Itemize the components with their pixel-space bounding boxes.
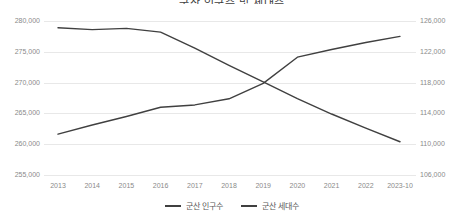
series-line — [58, 36, 400, 134]
legend-item[interactable]: 군산 세대수 — [241, 200, 299, 211]
legend-label: 군산 세대수 — [262, 200, 299, 211]
series-line — [58, 28, 400, 142]
legend-label: 군산 인구수 — [186, 200, 223, 211]
legend-line-icon — [165, 205, 181, 207]
series-lines — [0, 0, 464, 218]
legend-item[interactable]: 군산 인구수 — [165, 200, 223, 211]
legend-line-icon — [241, 205, 257, 207]
plot-area: 255,000260,000265,000270,000275,000280,0… — [0, 0, 464, 218]
chart-legend: 군산 인구수군산 세대수 — [0, 200, 464, 211]
chart-container: 군산 인구수 및 세대수 255,000260,000265,000270,00… — [0, 0, 464, 218]
